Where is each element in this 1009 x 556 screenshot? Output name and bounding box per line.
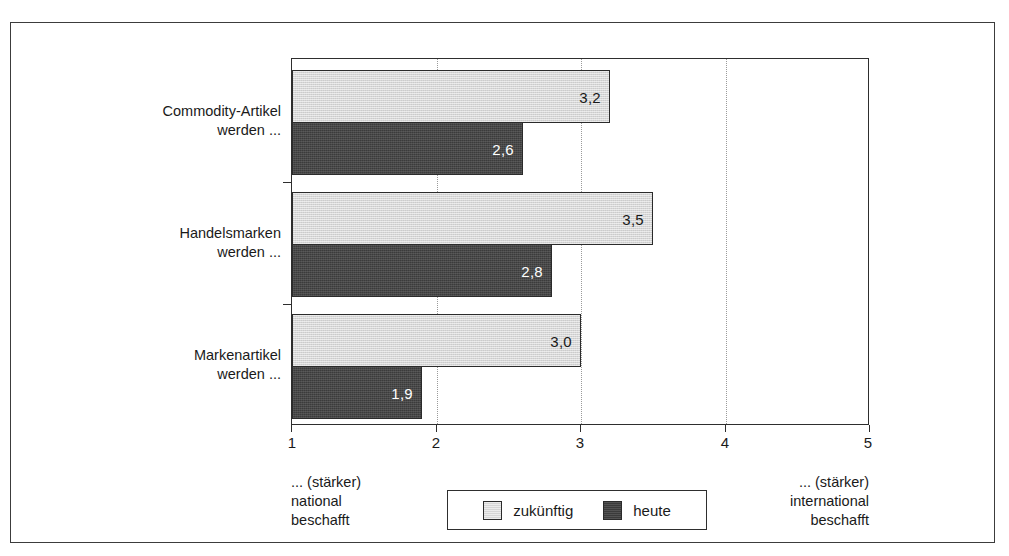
x-tick-1 xyxy=(291,425,292,432)
category-label-line: Commodity-Artikel werden ... xyxy=(163,103,281,138)
bar-value: 3,0 xyxy=(550,332,572,349)
bar-today-commodity[interactable]: 2,6 xyxy=(292,122,523,175)
x-axis-label-4: 4 xyxy=(721,434,729,451)
bar-value: 3,2 xyxy=(579,88,601,105)
chart-legend: zukünftig heute xyxy=(447,490,707,530)
x-tick-5 xyxy=(869,425,870,432)
figure-frame: 3,2 2,6 3,5 2,8 3,0 1,9 Commo xyxy=(10,22,995,543)
bar-chart: 3,2 2,6 3,5 2,8 3,0 1,9 Commo xyxy=(11,23,996,544)
scale-anchor-left: ... (stärker) national beschafft xyxy=(291,473,361,530)
x-tick-3 xyxy=(580,425,581,432)
category-label-markenartikel: Markenartikel werden ... xyxy=(31,346,281,384)
x-axis-label-3: 3 xyxy=(576,434,584,451)
category-label-line: Handelsmarken werden ... xyxy=(179,225,281,260)
legend-swatch-icon xyxy=(603,501,622,520)
legend-swatch-icon xyxy=(483,501,502,520)
x-tick-2 xyxy=(436,425,437,432)
bar-today-markenartikel[interactable]: 1,9 xyxy=(292,366,422,419)
legend-label: heute xyxy=(633,502,671,519)
legend-label: zukünftig xyxy=(513,502,573,519)
x-axis-label-5: 5 xyxy=(864,434,872,451)
bar-value: 1,9 xyxy=(391,384,413,401)
category-tick-1 xyxy=(283,182,292,183)
legend-item-zukuenftig[interactable]: zukünftig xyxy=(483,501,573,520)
gridline-4 xyxy=(726,59,727,424)
bar-value: 3,5 xyxy=(622,210,644,227)
x-tick-4 xyxy=(725,425,726,432)
legend-item-heute[interactable]: heute xyxy=(603,501,671,520)
plot-area: 3,2 2,6 3,5 2,8 3,0 1,9 xyxy=(291,58,869,425)
x-axis-label-2: 2 xyxy=(432,434,440,451)
x-axis-label-1: 1 xyxy=(288,434,296,451)
category-tick-2 xyxy=(283,304,292,305)
bar-value: 2,8 xyxy=(521,262,543,279)
bar-future-markenartikel[interactable]: 3,0 xyxy=(292,314,581,367)
bar-value: 2,6 xyxy=(492,140,514,157)
bar-today-handelsmarken[interactable]: 2,8 xyxy=(292,244,552,297)
bar-future-commodity[interactable]: 3,2 xyxy=(292,70,610,123)
category-label-commodity: Commodity-Artikel werden ... xyxy=(31,102,281,140)
category-label-handelsmarken: Handelsmarken werden ... xyxy=(31,224,281,262)
category-label-line: Markenartikel werden ... xyxy=(194,347,281,382)
bar-future-handelsmarken[interactable]: 3,5 xyxy=(292,192,653,245)
